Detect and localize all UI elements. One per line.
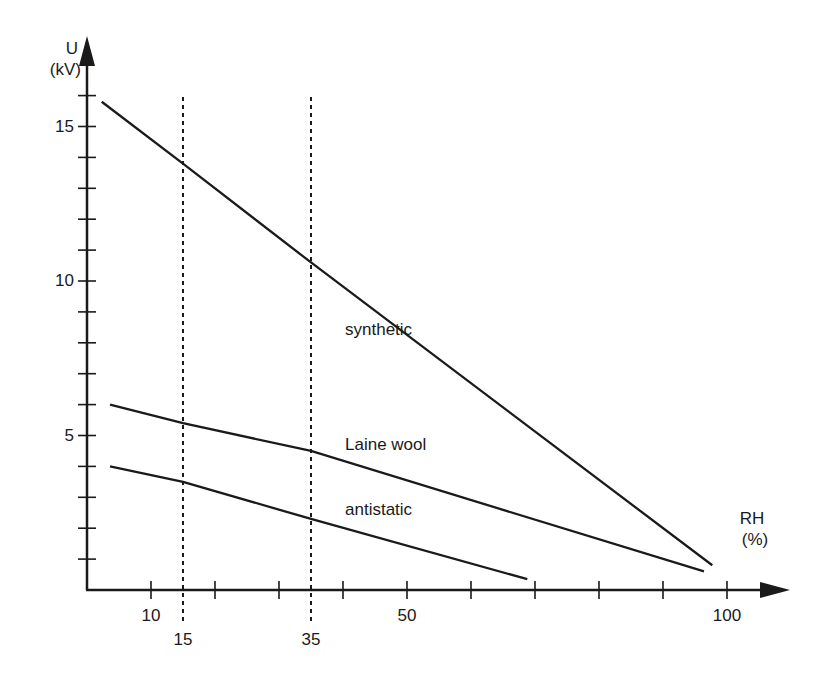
y-axis-label-symbol: U (66, 40, 78, 57)
y-tick-label: 10 (55, 272, 74, 289)
series-line-antistatic (110, 466, 527, 579)
x-tick-label: 10 (142, 607, 161, 624)
y-axis-label-unit: (kV) (50, 61, 81, 78)
y-tick-label: 5 (65, 427, 74, 444)
x-axis-arrow-icon (760, 582, 790, 598)
y-axis-arrow-icon (79, 36, 95, 66)
x-tick-label: 50 (398, 607, 417, 624)
x-axis-label-unit: (%) (742, 531, 768, 548)
x-tick-label: 100 (713, 607, 741, 624)
series-label: antistatic (345, 501, 412, 518)
y-tick-label: 15 (55, 118, 74, 135)
reference-line-label: 35 (302, 631, 321, 648)
axes (78, 36, 790, 599)
reference-lines (183, 97, 311, 622)
series-label: Laine wool (345, 436, 426, 453)
x-axis-label-symbol: RH (740, 510, 765, 527)
reference-line-label: 15 (174, 631, 193, 648)
series-label: synthetic (345, 321, 412, 338)
